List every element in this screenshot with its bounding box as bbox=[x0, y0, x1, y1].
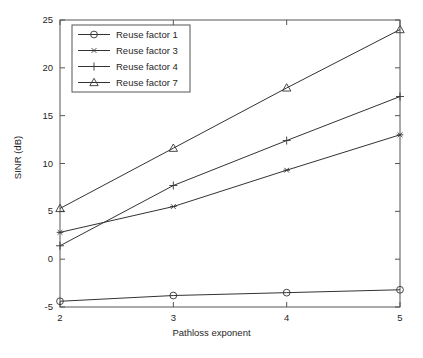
legend-label: Reuse factor 7 bbox=[116, 77, 178, 88]
legend-label: Reuse factor 1 bbox=[116, 29, 178, 40]
legend-label: Reuse factor 4 bbox=[116, 61, 178, 72]
chart-figure: SINR (dB) Pathloss exponent 2520151050-5… bbox=[0, 0, 423, 358]
legend: Reuse factor 1Reuse factor 3Reuse factor… bbox=[72, 25, 190, 92]
plot-area: Reuse factor 1Reuse factor 3Reuse factor… bbox=[0, 0, 423, 358]
legend-label: Reuse factor 3 bbox=[116, 45, 178, 56]
